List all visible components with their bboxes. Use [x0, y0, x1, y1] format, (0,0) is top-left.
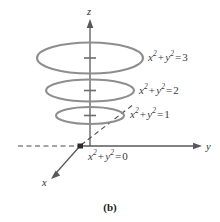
level-label-0-plus: +: [97, 150, 105, 162]
z-axis-label: z: [87, 6, 91, 17]
figure-caption: (b): [0, 201, 220, 213]
level-label-0: x2+y2=0: [88, 150, 128, 162]
level-label-1-value: 1: [164, 108, 170, 120]
x-axis-arrowhead: [51, 171, 60, 179]
y-axis-label: y: [206, 141, 211, 152]
level-label-1: x2+y2=1: [130, 108, 170, 120]
figure-canvas: [0, 0, 220, 222]
z-axis-arrowhead: [87, 19, 94, 28]
level-label-3: x2+y2=3: [148, 51, 188, 63]
level-label-3-value: 3: [182, 51, 188, 63]
y-axis-arrowhead: [193, 143, 202, 149]
x-axis-line: [56, 146, 80, 173]
origin-marker: [78, 144, 84, 149]
level-label-1-plus: +: [139, 108, 147, 120]
level-label-2-plus: +: [148, 84, 156, 96]
level-label-2: x2+y2=2: [139, 84, 179, 96]
level-label-2-value: 2: [173, 84, 179, 96]
level-curves-figure: z y x x2+y2=3 x2+y2=2 x2+y2=1 x2+y2=0 (b…: [0, 0, 220, 222]
level-label-0-value: 0: [122, 150, 128, 162]
level-label-3-plus: +: [157, 51, 165, 63]
x-axis-label: x: [42, 177, 47, 188]
